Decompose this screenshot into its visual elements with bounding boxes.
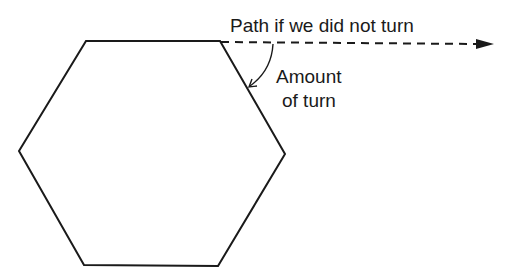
hexagon-turn-diagram: Path if we did not turn Amount of turn [0,0,512,280]
dashed-extension-line [221,42,478,44]
arrowhead-icon [476,39,494,49]
turn-label-line2: of turn [282,90,336,111]
path-label: Path if we did not turn [230,15,414,36]
turn-arc-arrow [250,44,273,86]
hexagon-shape [19,41,285,266]
diagram-canvas: Path if we did not turn Amount of turn [0,0,512,280]
turn-label-line1: Amount [276,66,342,87]
